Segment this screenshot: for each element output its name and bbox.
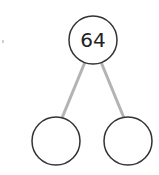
whole-value: 64 [80,28,105,52]
connector-left [62,62,85,118]
connector-right [101,62,124,118]
part-whole-diagram: 64 [0,0,159,175]
stray-mark [2,40,4,43]
part-circle-left[interactable] [32,117,80,165]
part-circle-right[interactable] [104,117,152,165]
part-node-left[interactable] [32,117,80,165]
whole-node: 64 [69,16,117,64]
part-node-right[interactable] [104,117,152,165]
